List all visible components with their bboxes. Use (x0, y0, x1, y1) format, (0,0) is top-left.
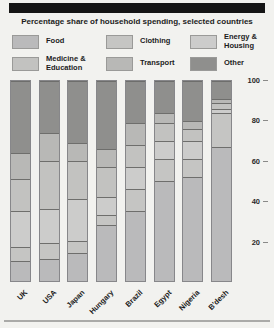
tick-dash (263, 120, 268, 121)
bar-segment (126, 189, 145, 211)
legend-item: Food (12, 31, 104, 52)
bar-segment (40, 81, 59, 133)
bar-segment (68, 241, 87, 253)
bar-segment (212, 147, 231, 281)
stacked-bar-chart: 10080604020 (10, 80, 268, 282)
bar-segment (40, 243, 59, 259)
top-rule-bar (9, 3, 265, 13)
chart-figure: Percentage share of household spending, … (0, 0, 274, 328)
legend-item: Energy & Housing (190, 31, 272, 52)
legend-item: Transport (106, 53, 188, 74)
x-axis-label: Nigeria (177, 288, 201, 312)
legend-swatch (190, 57, 217, 71)
x-axis-label: Japan (65, 288, 87, 310)
bar-segment (183, 129, 202, 141)
bottom-rule (4, 320, 270, 322)
legend-swatch (190, 35, 217, 49)
legend-swatch (106, 35, 133, 49)
bar-segment (68, 143, 87, 161)
bar-segment (11, 179, 30, 211)
y-tick: 80 (234, 116, 268, 125)
bar-segment (97, 225, 116, 281)
bar-brazil (125, 80, 146, 282)
bar-segment (155, 159, 174, 181)
bar-segment (155, 181, 174, 281)
y-tick-label: 60 (252, 157, 260, 166)
bar-segment (183, 121, 202, 129)
bar-uk (10, 80, 31, 282)
bar-segment (68, 81, 87, 143)
bar-segment (97, 81, 116, 149)
y-tick: 20 (234, 238, 268, 247)
bar-segment (155, 141, 174, 159)
bar-segment (212, 81, 231, 99)
bar-segment (11, 211, 30, 247)
bar-segment (212, 113, 231, 147)
y-tick: 100 (234, 76, 268, 85)
legend-label: Medicine & Education (46, 55, 94, 71)
bar-segment (126, 167, 145, 189)
y-tick: 60 (234, 157, 268, 166)
bar-hungary (96, 80, 117, 282)
tick-dash (263, 242, 268, 243)
bar-bdesh (211, 80, 232, 282)
x-axis-label: USA (41, 288, 59, 306)
legend: FoodClothingEnergy & HousingMedicine & E… (12, 31, 268, 75)
bar-nigeria (182, 80, 203, 282)
legend-swatch (106, 57, 133, 71)
bar-segment (126, 211, 145, 281)
bar-segment (126, 123, 145, 145)
legend-item: Medicine & Education (12, 53, 104, 74)
chart-title: Percentage share of household spending, … (0, 17, 274, 26)
bar-segment (40, 209, 59, 243)
plot-area (10, 80, 268, 282)
bar-segment (126, 81, 145, 123)
bar-segment (97, 167, 116, 197)
y-tick-label: 20 (252, 238, 260, 247)
bar-segment (183, 81, 202, 121)
y-axis-ticks: 10080604020 (234, 80, 268, 282)
y-tick-label: 40 (252, 197, 260, 206)
bar-japan (67, 80, 88, 282)
x-axis-labels: UKUSAJapanHungaryBrazilEgyptNigeriaB'des… (10, 284, 232, 318)
legend-swatch (12, 57, 39, 71)
bar-segment (97, 149, 116, 167)
bar-segment (126, 145, 145, 167)
bar-segment (11, 153, 30, 179)
bar-segment (40, 259, 59, 281)
bar-segment (68, 199, 87, 241)
bar-egypt (154, 80, 175, 282)
bar-segment (68, 253, 87, 281)
y-tick-label: 80 (252, 116, 260, 125)
y-tick: 40 (234, 197, 268, 206)
legend-label: Transport (140, 59, 175, 67)
legend-item: Clothing (106, 31, 188, 52)
bar-segment (183, 159, 202, 177)
legend-item: Other (190, 53, 272, 74)
x-axis-label: UK (15, 288, 29, 302)
legend-label: Energy & Housing (224, 33, 272, 49)
bar-segment (183, 177, 202, 281)
bar-segment (97, 197, 116, 215)
x-axis-label: Egypt (152, 288, 173, 309)
bar-segment (11, 261, 30, 281)
bar-segment (40, 133, 59, 161)
bar-segment (40, 161, 59, 209)
bar-segment (155, 123, 174, 141)
legend-swatch (12, 35, 39, 49)
bar-segment (97, 215, 116, 225)
bar-segment (11, 247, 30, 261)
tick-dash (263, 161, 268, 162)
x-axis-label: Hungary (87, 288, 115, 316)
legend-label: Food (46, 37, 64, 45)
x-axis-label: B'desh (207, 288, 231, 312)
bar-segment (183, 141, 202, 159)
bar-segment (155, 81, 174, 113)
bar-segment (155, 113, 174, 123)
legend-label: Clothing (140, 37, 170, 45)
y-tick-label: 100 (247, 76, 260, 85)
tick-dash (263, 201, 268, 202)
bar-usa (39, 80, 60, 282)
legend-label: Other (224, 59, 244, 67)
bar-segment (11, 81, 30, 153)
